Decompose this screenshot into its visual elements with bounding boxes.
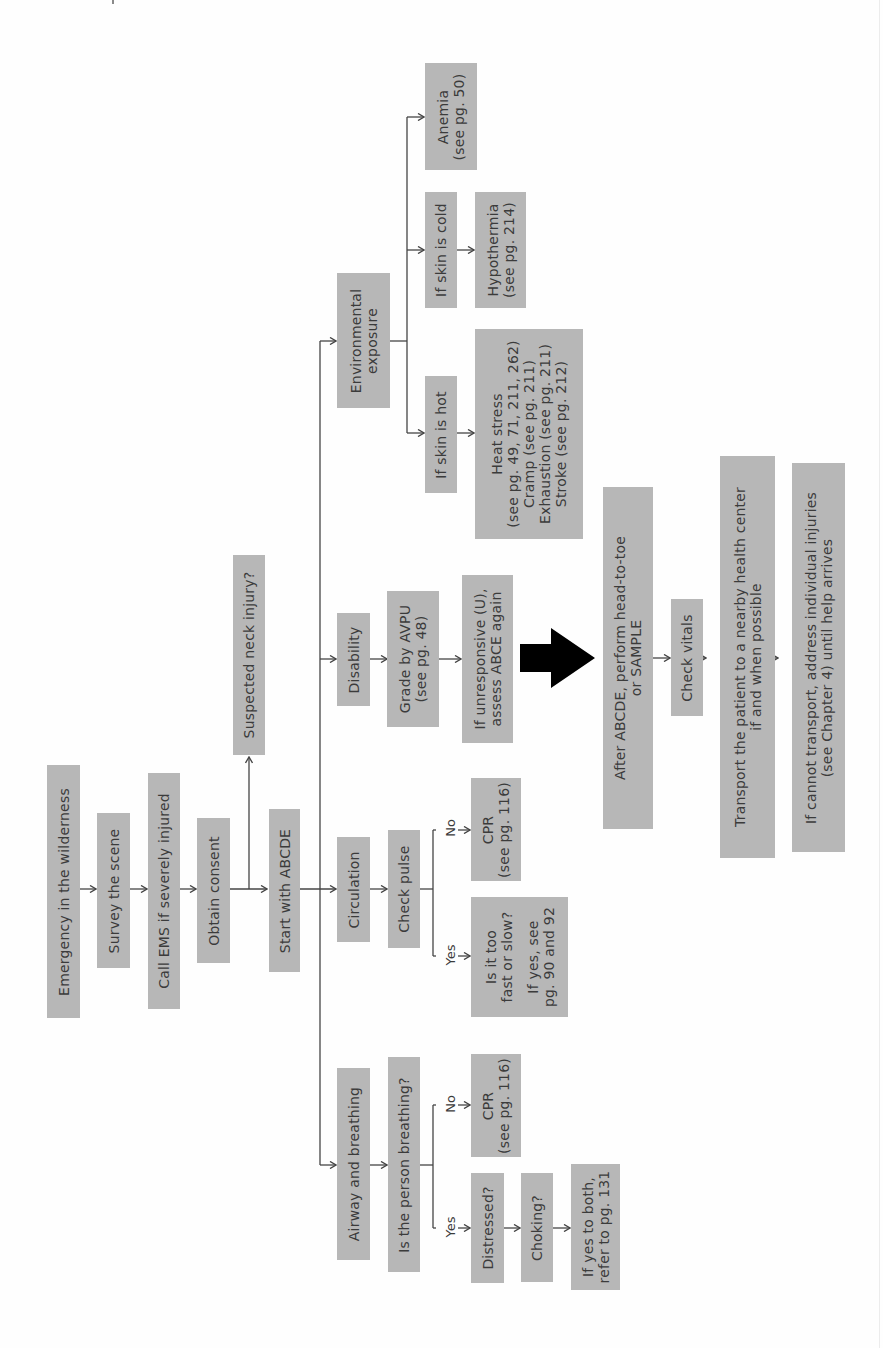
big-arrow-icon: [520, 628, 595, 688]
rate-spacer: [515, 907, 525, 1007]
box-check-vitals: Check vitals: [671, 599, 703, 716]
circ-cpr-1: CPR: [480, 782, 496, 878]
air-cpr-2: (see pg. 116): [496, 1058, 512, 1154]
cannot-line-2: (see Chapter 4) until help arrives: [819, 491, 835, 823]
heat-line-2: (see pg. 49, 71, 211, 262): [505, 340, 521, 528]
hypo-line-1: Hypothermia: [485, 202, 501, 298]
skin-hot-text: If skin is hot: [433, 391, 449, 478]
heat-line-5: Stroke (see pg. 212): [553, 340, 569, 528]
hypo-line-2: (see pg. 214): [501, 202, 517, 298]
heat-line-4: Exhaustion (see pg. 211): [537, 340, 553, 528]
rate-line-1: Is it too: [483, 907, 499, 1007]
box-choking: Choking?: [521, 1173, 553, 1282]
exposure-title-1: Environmental: [348, 288, 364, 392]
box-skin-cold: If skin is cold: [425, 192, 457, 308]
box-airway-cpr: CPR(see pg. 116): [471, 1054, 521, 1157]
after-line-1: After ABCDE, perform head-to-toe: [612, 536, 628, 780]
skin-cold-text: If skin is cold: [433, 203, 449, 297]
rate-line-2: fast or slow?: [499, 907, 515, 1007]
box-grade-avpu: Grade by AVPU(see pg. 48): [387, 591, 439, 727]
refer-line-2: refer to pg. 131: [596, 1171, 612, 1284]
box-cannot-transport: If cannot transport, address individual …: [792, 463, 845, 852]
box-check-pulse: Check pulse: [388, 830, 420, 948]
box-disability: Disability: [337, 613, 370, 706]
box-airway-breathing: Airway and breathing: [337, 1068, 370, 1260]
circulation-yes-label: Yes: [443, 940, 459, 970]
box-neck-injury: Suspected neck injury?: [233, 555, 265, 755]
rate-line-4: If yes, see: [525, 907, 541, 1007]
after-line-2: or SAMPLE: [628, 536, 644, 780]
is-breathing-text: Is the person breathing?: [396, 1077, 412, 1253]
box-environmental-exposure: Environmentalexposure: [337, 273, 390, 408]
box-call-ems-text: Call EMS if severely injured: [156, 793, 172, 989]
anemia-line-2: (see pg. 50): [451, 73, 467, 160]
box-is-breathing: Is the person breathing?: [388, 1057, 420, 1272]
box-anemia: Anemia(see pg. 50): [425, 63, 477, 170]
exposure-title-2: exposure: [364, 288, 380, 392]
box-obtain-consent: Obtain consent: [197, 818, 230, 963]
air-cpr-1: CPR: [480, 1058, 496, 1154]
box-refer-131: If yes to both,refer to pg. 131: [571, 1164, 620, 1290]
box-unresponsive: If unresponsive (U),assess ABCE again: [462, 575, 513, 743]
heat-line-3: Cramp (see pg. 211): [521, 340, 537, 528]
circ-cpr-2: (see pg. 116): [496, 782, 512, 878]
box-after-abcde: After ABCDE, perform head-to-toeor SAMPL…: [603, 487, 653, 829]
anemia-line-1: Anemia: [435, 73, 451, 160]
grade-line-1: Grade by AVPU: [397, 605, 413, 713]
grade-line-2: (see pg. 48): [413, 605, 429, 713]
box-skin-hot: If skin is hot: [425, 376, 457, 493]
choking-text: Choking?: [529, 1194, 545, 1260]
box-emergency: Emergency in the wilderness: [47, 765, 80, 1018]
rate-line-5: pg. 90 and 92: [541, 907, 557, 1007]
heat-line-1: Heat stress: [489, 340, 505, 528]
box-survey-text: Survey the scene: [106, 828, 122, 953]
circulation-text: Circulation: [346, 851, 362, 928]
unresp-line-1: If unresponsive (U),: [472, 588, 488, 729]
transport-line-2: if and when possible: [748, 487, 764, 827]
airway-no-label: No: [443, 1093, 459, 1115]
airway-text: Airway and breathing: [346, 1087, 362, 1241]
unresp-line-2: assess ABCE again: [488, 588, 504, 729]
vitals-text: Check vitals: [679, 614, 695, 701]
box-start-abcde: Start with ABCDE: [269, 809, 300, 972]
check-pulse-text: Check pulse: [396, 845, 412, 932]
box-circulation: Circulation: [337, 837, 370, 942]
box-distressed: Distressed?: [471, 1173, 504, 1283]
box-consent-text: Obtain consent: [206, 836, 222, 945]
circulation-no-label: No: [443, 817, 459, 839]
refer-line-1: If yes to both,: [580, 1171, 596, 1284]
box-survey-scene: Survey the scene: [97, 813, 130, 968]
box-call-ems: Call EMS if severely injured: [148, 773, 180, 1009]
box-heat-stress: Heat stress (see pg. 49, 71, 211, 262) C…: [475, 329, 583, 539]
distressed-text: Distressed?: [480, 1186, 496, 1269]
airway-yes-label: Yes: [443, 1212, 459, 1242]
disability-text: Disability: [346, 626, 362, 693]
box-circulation-cpr: CPR(see pg. 116): [471, 778, 521, 881]
box-transport: Transport the patient to a nearby health…: [720, 456, 775, 858]
box-pulse-rate: Is it too fast or slow? If yes, see pg. …: [471, 897, 568, 1017]
transport-line-1: Transport the patient to a nearby health…: [732, 487, 748, 827]
cannot-line-1: If cannot transport, address individual …: [803, 491, 819, 823]
box-hypothermia: Hypothermia(see pg. 214): [475, 192, 526, 308]
box-start-text: Start with ABCDE: [277, 828, 293, 952]
flowchart-page: Emergency in the wilderness Survey the s…: [0, 0, 883, 1348]
box-neck-text: Suspected neck injury?: [241, 572, 257, 739]
box-emergency-text: Emergency in the wilderness: [56, 788, 72, 996]
